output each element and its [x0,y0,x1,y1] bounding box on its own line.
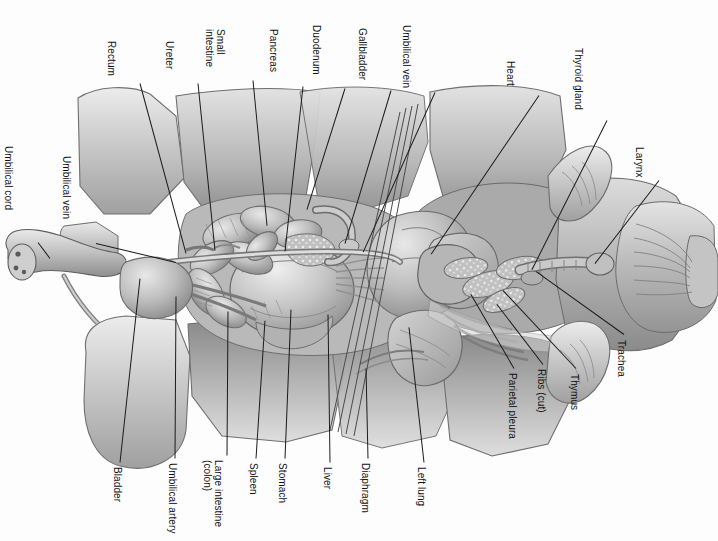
label-heart: Heart [505,61,517,86]
label-umbilical-vein-t: Umbilical vein [401,25,413,88]
label-trachea: Trachea [616,340,628,377]
label-spleen: Spleen [248,463,260,495]
label-parietal-pleura: Parietal pleura [507,373,519,439]
label-small-intestine: Small intestine [204,29,226,67]
label-rectum: Rectum [106,41,118,76]
label-pancreas: Pancreas [268,29,280,72]
label-liver: Liver [322,467,334,489]
label-umbilical-artery: Umbilical artery [167,463,179,534]
label-left-lung: Left lung [416,467,428,506]
label-large-intestine: Large intestine (colon) [202,460,224,527]
fetal-pig-illustration [0,0,718,541]
label-umbilical-vein-l: Umbilical vein [61,156,73,219]
label-gallbladder: Gallbladder [357,28,369,80]
label-umbilical-cord: Umbilical cord [3,146,15,210]
label-duodenum: Duodenum [311,25,323,75]
label-ureter: Ureter [164,41,176,69]
label-stomach: Stomach [277,463,289,503]
figure-page: Umbilical cordUmbilical veinRectumUreter… [0,0,718,541]
label-diaphragm: Diaphragm [360,463,372,513]
label-larynx: Larynx [634,147,646,178]
label-ribs-cut: Ribs (cut) [536,369,548,413]
label-bladder: Bladder [112,467,124,502]
label-thymus: Thymus [569,374,581,410]
label-thyroid-gland: Thyroid gland [573,48,585,110]
